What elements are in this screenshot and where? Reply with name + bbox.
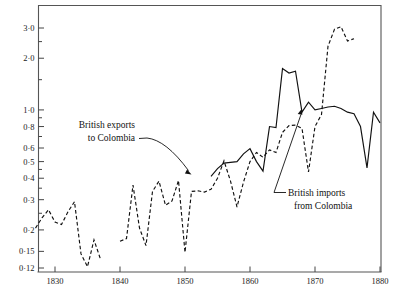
exports-annotation-line2: to Colombia — [88, 133, 136, 143]
chart-container: 3·02·01·00·80·60·50·40·30·20·150·12 1830… — [0, 0, 393, 294]
y-tick-label: 1·0 — [23, 105, 34, 115]
exports-leader-line — [139, 138, 189, 171]
imports-leader-line — [274, 114, 301, 192]
x-tick-label: 1870 — [307, 276, 324, 286]
y-tick-label: 0·15 — [19, 246, 35, 256]
y-axis-ticks: 3·02·01·00·80·60·50·40·30·20·150·12 — [19, 23, 44, 273]
y-tick-label: 0·12 — [19, 263, 35, 273]
x-tick-label: 1840 — [112, 276, 129, 286]
imports-annotation-line1: British imports — [288, 188, 346, 198]
y-tick-label: 0·5 — [23, 157, 34, 167]
exports-annotation-line1: British exports — [79, 120, 136, 130]
y-tick-label: 0·8 — [23, 122, 34, 132]
data-series-group — [36, 27, 381, 267]
y-tick-label: 0·4 — [23, 173, 35, 183]
x-tick-label: 1860 — [242, 276, 259, 286]
x-tick-label: 1850 — [177, 276, 194, 286]
y-tick-label: 0·3 — [23, 195, 34, 205]
series-imports-line — [211, 69, 380, 177]
x-axis-ticks: 183018401850186018701880 — [47, 267, 389, 287]
imports-arrowhead — [298, 108, 303, 114]
y-tick-label: 0·6 — [23, 143, 34, 153]
trade-line-chart: 3·02·01·00·80·60·50·40·30·20·150·12 1830… — [0, 0, 393, 294]
y-tick-label: 2·0 — [23, 53, 34, 63]
y-tick-label: 3·0 — [23, 23, 34, 33]
x-tick-label: 1880 — [372, 276, 389, 286]
y-tick-label: 0·2 — [23, 225, 34, 235]
imports-annotation-line2: from Colombia — [294, 201, 353, 211]
series-exports-line — [36, 27, 355, 267]
x-tick-label: 1830 — [47, 276, 64, 286]
annotations-group: British exportsto ColombiaBritish import… — [79, 108, 353, 211]
